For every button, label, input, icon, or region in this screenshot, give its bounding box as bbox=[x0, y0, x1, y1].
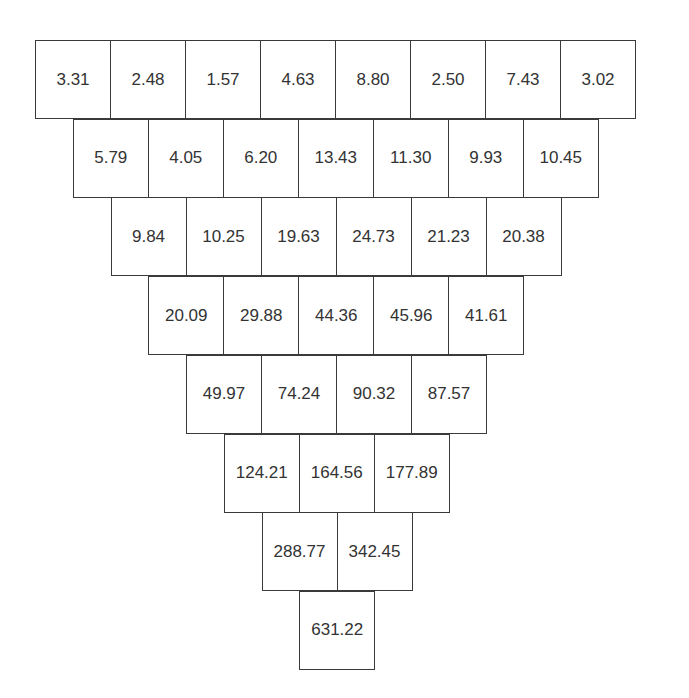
pyramid-row-1: 3.312.481.574.638.802.507.433.02 bbox=[35, 40, 635, 118]
pyramid-cell: 19.63 bbox=[261, 197, 337, 276]
pyramid-cell: 4.63 bbox=[260, 40, 336, 119]
pyramid-row-5: 49.9774.2490.3287.57 bbox=[186, 355, 486, 433]
pyramid-cell: 6.20 bbox=[223, 119, 299, 198]
pyramid-row-6: 124.21164.56177.89 bbox=[224, 434, 449, 512]
pyramid-row-4: 20.0929.8844.3645.9641.61 bbox=[148, 276, 523, 354]
pyramid-cell: 13.43 bbox=[298, 119, 374, 198]
pyramid-cell: 87.57 bbox=[411, 355, 487, 434]
pyramid-cell: 124.21 bbox=[224, 434, 300, 513]
pyramid-cell: 1.57 bbox=[185, 40, 261, 119]
pyramid-cell: 49.97 bbox=[186, 355, 262, 434]
pyramid-row-2: 5.794.056.2013.4311.309.9310.45 bbox=[73, 119, 598, 197]
pyramid-cell: 20.09 bbox=[148, 276, 224, 355]
pyramid-cell: 2.50 bbox=[410, 40, 486, 119]
pyramid-cell: 90.32 bbox=[336, 355, 412, 434]
pyramid-cell: 342.45 bbox=[337, 512, 413, 591]
pyramid-cell: 41.61 bbox=[448, 276, 524, 355]
pyramid-cell: 10.25 bbox=[186, 197, 262, 276]
pyramid-cell: 3.02 bbox=[560, 40, 636, 119]
pyramid-row-8: 631.22 bbox=[299, 591, 374, 669]
pyramid-cell: 8.80 bbox=[335, 40, 411, 119]
pyramid-cell: 288.77 bbox=[262, 512, 338, 591]
number-pyramid: 3.312.481.574.638.802.507.433.025.794.05… bbox=[0, 0, 689, 698]
pyramid-cell: 164.56 bbox=[299, 434, 375, 513]
pyramid-cell: 20.38 bbox=[486, 197, 562, 276]
pyramid-row-3: 9.8410.2519.6324.7321.2320.38 bbox=[111, 197, 561, 275]
pyramid-cell: 10.45 bbox=[523, 119, 599, 198]
pyramid-cell: 44.36 bbox=[298, 276, 374, 355]
pyramid-cell: 177.89 bbox=[374, 434, 450, 513]
pyramid-cell: 74.24 bbox=[261, 355, 337, 434]
pyramid-cell: 9.93 bbox=[448, 119, 524, 198]
pyramid-cell: 9.84 bbox=[111, 197, 187, 276]
pyramid-cell: 24.73 bbox=[336, 197, 412, 276]
pyramid-cell: 3.31 bbox=[35, 40, 111, 119]
pyramid-cell: 21.23 bbox=[411, 197, 487, 276]
pyramid-cell: 45.96 bbox=[373, 276, 449, 355]
pyramid-cell: 29.88 bbox=[223, 276, 299, 355]
pyramid-cell: 631.22 bbox=[299, 591, 375, 670]
pyramid-row-7: 288.77342.45 bbox=[262, 512, 412, 590]
pyramid-cell: 4.05 bbox=[148, 119, 224, 198]
pyramid-cell: 7.43 bbox=[485, 40, 561, 119]
pyramid-cell: 5.79 bbox=[73, 119, 149, 198]
pyramid-cell: 11.30 bbox=[373, 119, 449, 198]
pyramid-cell: 2.48 bbox=[110, 40, 186, 119]
